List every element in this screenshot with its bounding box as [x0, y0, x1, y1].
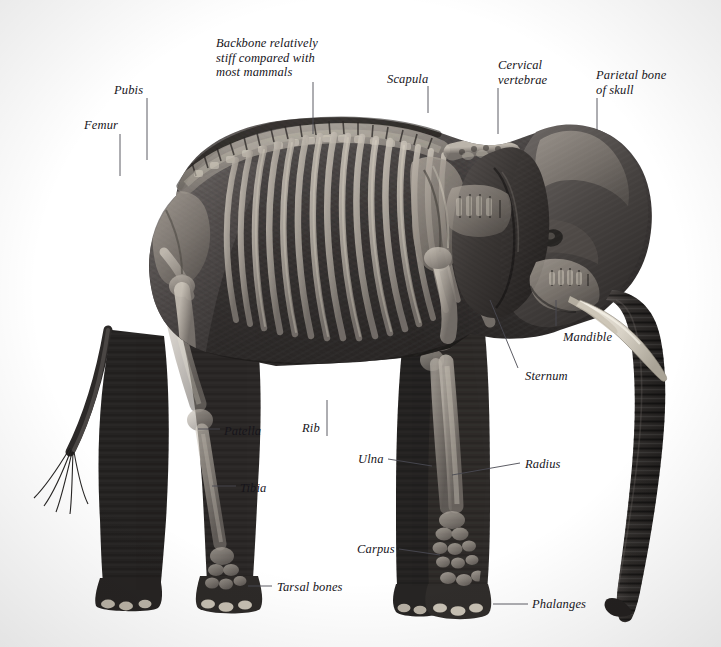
label-scapula: Scapula [387, 72, 428, 87]
label-femur: Femur [84, 118, 118, 133]
label-carpus: Carpus [357, 542, 395, 557]
label-backbone: Backbone relatively stiff compared with … [216, 36, 318, 80]
label-parietal: Parietal bone of skull [596, 68, 666, 97]
label-tarsal: Tarsal bones [277, 580, 343, 595]
label-phalanges: Phalanges [532, 597, 586, 612]
label-ulna: Ulna [358, 452, 384, 467]
label-radius: Radius [525, 457, 561, 472]
label-pubis: Pubis [114, 83, 143, 98]
label-patella: Patella [224, 424, 261, 439]
label-mandible: Mandible [563, 330, 612, 345]
label-tibia: Tibia [240, 481, 266, 496]
label-sternum: Sternum [525, 369, 568, 384]
figure-canvas: FemurPubisBackbone relatively stiff comp… [0, 0, 721, 647]
label-cervical: Cervical vertebrae [498, 58, 547, 87]
label-rib: Rib [302, 421, 320, 436]
